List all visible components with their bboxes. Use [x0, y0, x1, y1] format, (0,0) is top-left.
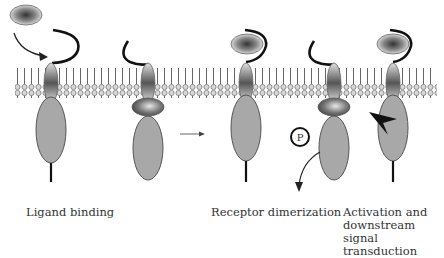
bound-ligand: [377, 34, 409, 54]
receptor-3: [231, 30, 266, 182]
transition-arrowhead-icon: [199, 132, 205, 137]
receptor-1: [36, 30, 78, 182]
receptor-4: [309, 41, 350, 180]
dimerization-domain: [318, 98, 350, 116]
phosphate-label: P: [297, 132, 304, 143]
stage-label-line: transduction: [343, 245, 444, 258]
bound-ligand: [231, 34, 263, 54]
transmembrane-domain: [327, 63, 341, 103]
intracellular-domain: [231, 95, 261, 161]
stage-label-ligand-binding: Ligand binding: [26, 206, 114, 219]
dimerization-domain: [132, 98, 164, 116]
receptor-5: [369, 30, 411, 182]
receptor-2: [123, 41, 164, 180]
ligand-binding-arm: [52, 30, 78, 63]
free-ligand: [10, 5, 42, 25]
intracellular-domain: [319, 116, 349, 180]
transmembrane-domain: [141, 63, 155, 103]
ligand-binding-arm: [309, 41, 334, 65]
ligand-binding-arm: [123, 41, 148, 65]
stage-label-receptor-dimerization: Receptor dimerization: [211, 206, 341, 219]
release-arrowhead-icon: [295, 182, 303, 192]
intracellular-domain: [133, 116, 163, 180]
intracellular-domain: [36, 97, 66, 163]
cell-membrane: [15, 68, 437, 98]
stage-label-line: downstream signal: [343, 219, 444, 245]
arrowhead-icon: [39, 52, 48, 61]
phosphate-release-arrow-icon: [299, 152, 320, 185]
stage-label-activation: Activation and downstream signal transdu…: [343, 206, 444, 258]
